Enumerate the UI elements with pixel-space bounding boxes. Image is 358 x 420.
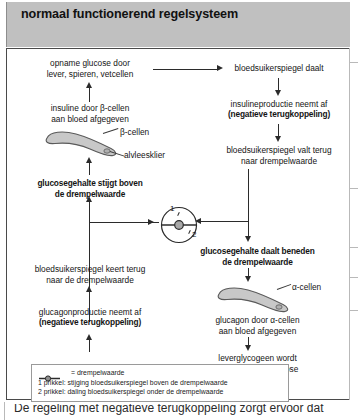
- threshold-gauge: [159, 205, 199, 245]
- arrowhead-down: [275, 136, 281, 142]
- arrowhead-right: [148, 219, 154, 225]
- body-caption-text: De regeling met negatieve terugkoppeling…: [14, 404, 324, 415]
- page-edge-tick: [349, 62, 358, 63]
- legend-item-1: 1 prikkel: stijging bloedsuikerspiegel b…: [38, 379, 228, 388]
- arrowhead-down: [275, 90, 281, 96]
- page-edge-tick: [349, 188, 358, 189]
- connector-trunk-to-glucose-above: [89, 201, 90, 223]
- connector-right-trunk-to-gauge: [199, 221, 249, 222]
- pancreas-alpha-illustration: [215, 284, 293, 314]
- label-alpha-cells: α-cellen: [292, 282, 321, 292]
- title-bar: normaal functionerend regelsysteem: [6, 2, 350, 47]
- arrowhead-up: [86, 82, 92, 88]
- node-insulin-production-down: insulineproductie neemt af: [203, 99, 355, 110]
- gauge-marker-1: 1: [170, 204, 174, 213]
- node-glucagon-release: glucagon door α-cellenaan bloed afgegeve…: [185, 315, 330, 336]
- connector-glucagon-down-to-bs-returns: [89, 292, 90, 304]
- arrowhead-down: [245, 345, 251, 351]
- node-insulin-production-down-feedback: (negatieve terugkoppeling): [203, 109, 355, 120]
- node-glucagon-production-down-feedback: (negatieve terugkoppeling): [10, 317, 170, 328]
- arrowhead-up: [86, 196, 92, 202]
- arrowhead-down: [245, 276, 251, 282]
- page-edge-tick: [349, 277, 358, 278]
- connector-bs-rises-to-glucagon-down: [89, 340, 90, 352]
- node-glucose-below-threshold: glucosegehalte daalt benedende drempelwa…: [175, 246, 340, 267]
- connector-insulin-to-uptake: [89, 88, 90, 102]
- legend-item-2: 2 prikkel: daling bloedsuikerspiegel ond…: [38, 388, 223, 397]
- legend-box: = drempelwaarde 1 prikkel: stijging bloe…: [31, 364, 289, 402]
- label-pancreas: alvleesklier: [124, 150, 165, 160]
- gauge-marker-2: 2: [192, 230, 196, 239]
- page-side-rule: [4, 402, 5, 420]
- label-beta-cells: β-cellen: [120, 127, 149, 137]
- arrowhead-up: [86, 157, 92, 163]
- diagram-root: normaal functionerend regelsysteem opnam…: [0, 0, 358, 420]
- node-insulin-release: insuline door β-cellenaan bloed afgegeve…: [20, 103, 160, 124]
- arrowhead-up: [86, 286, 92, 292]
- pancreas-beta-illustration: [43, 128, 121, 158]
- legend-key-label: = drempelwaarde: [71, 369, 124, 378]
- node-bs-back-to-threshold: bloedsuikerspiegel valt terugnaar drempe…: [205, 145, 353, 166]
- page-edge-tick: [349, 310, 358, 311]
- node-glucagon-production-down: glucagonproductie neemt af: [10, 307, 170, 318]
- connector-right-trunk-down: [248, 169, 249, 222]
- connector-glucose-above-to-pancreas: [89, 163, 90, 175]
- connector-uptake-to-bs-falls: [153, 69, 219, 70]
- page-edge-tick: [349, 247, 358, 248]
- page-title: normaal functionerend regelsysteem: [21, 7, 238, 21]
- node-glucose-uptake: opname glucose doorlever, spieren, vetce…: [20, 58, 160, 79]
- node-bs-returns-threshold: bloedsuikerspiegel keert terugnaar de dr…: [10, 264, 170, 285]
- legend-key-icon: [38, 369, 68, 378]
- arrowhead-down: [245, 236, 251, 242]
- body-caption: De regeling met negatieve terugkoppeling…: [14, 404, 344, 419]
- node-bs-falls: bloedsuikerspiegel daalt: [215, 63, 343, 74]
- arrowhead-up: [86, 334, 92, 340]
